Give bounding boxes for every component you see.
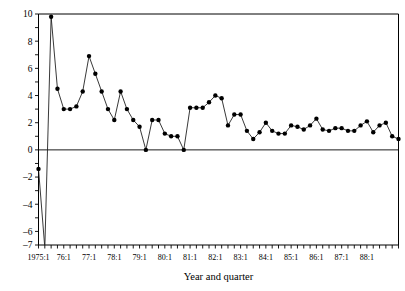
data-point-marker bbox=[358, 123, 362, 127]
data-point-marker bbox=[112, 118, 116, 122]
data-point-marker bbox=[251, 137, 255, 141]
x-axis-tick-label: 1975:1 bbox=[27, 253, 49, 262]
x-axis-tick-label: 80:1 bbox=[158, 253, 172, 262]
x-axis-tick-label: 76:1 bbox=[57, 253, 71, 262]
data-point-marker bbox=[156, 118, 160, 122]
y-axis-tick-label: 6 bbox=[28, 64, 33, 74]
x-axis-tick-label: 83:1 bbox=[233, 253, 247, 262]
y-axis-tick-label: 8 bbox=[28, 37, 33, 47]
data-point-marker bbox=[321, 127, 325, 131]
data-point-marker bbox=[352, 129, 356, 133]
data-point-marker bbox=[396, 137, 400, 141]
data-point-marker bbox=[131, 118, 135, 122]
data-point-marker bbox=[36, 167, 40, 171]
y-axis-tick-label: 0 bbox=[28, 145, 33, 155]
data-point-marker bbox=[87, 54, 91, 58]
data-point-marker bbox=[302, 127, 306, 131]
x-axis-tick-label: 84:1 bbox=[259, 253, 273, 262]
data-point-marker bbox=[62, 107, 66, 111]
data-point-marker bbox=[93, 72, 97, 76]
data-point-marker bbox=[390, 134, 394, 138]
data-point-marker bbox=[346, 129, 350, 133]
data-point-marker bbox=[365, 119, 369, 123]
data-point-marker bbox=[339, 126, 343, 130]
data-point-marker bbox=[144, 148, 148, 152]
y-axis-tick-label: 4 bbox=[28, 91, 33, 101]
x-axis-tick-label: 81:1 bbox=[183, 253, 197, 262]
data-point-marker bbox=[238, 112, 242, 116]
data-point-marker bbox=[219, 96, 223, 100]
x-axis-tick-label: 77:1 bbox=[82, 253, 96, 262]
data-point-marker bbox=[232, 112, 236, 116]
data-point-marker bbox=[257, 130, 261, 134]
data-point-marker bbox=[377, 123, 381, 127]
data-point-marker bbox=[207, 100, 211, 104]
data-point-marker bbox=[308, 123, 312, 127]
chart-container: –7–6–4–202468101975:176:177:178:179:180:… bbox=[0, 0, 405, 291]
data-point-marker bbox=[125, 107, 129, 111]
data-point-marker bbox=[295, 125, 299, 129]
y-axis-tick-label: –6 bbox=[22, 227, 33, 237]
data-point-marker bbox=[150, 118, 154, 122]
data-point-marker bbox=[314, 116, 318, 120]
x-axis-tick-label: 86:1 bbox=[309, 253, 323, 262]
data-point-marker bbox=[163, 131, 167, 135]
data-point-marker bbox=[226, 123, 230, 127]
y-axis-tick-label: –7 bbox=[22, 240, 33, 250]
data-point-marker bbox=[55, 87, 59, 91]
data-point-marker bbox=[201, 106, 205, 110]
data-point-marker bbox=[283, 131, 287, 135]
x-axis-tick-label: 79:1 bbox=[132, 253, 146, 262]
x-axis-tick-label: 85:1 bbox=[284, 253, 298, 262]
data-point-marker bbox=[182, 148, 186, 152]
time-series-chart: –7–6–4–202468101975:176:177:178:179:180:… bbox=[0, 0, 405, 291]
y-axis-tick-label: –4 bbox=[22, 200, 33, 210]
y-axis-tick-label: –2 bbox=[22, 172, 33, 182]
data-point-marker bbox=[106, 107, 110, 111]
data-point-marker bbox=[276, 131, 280, 135]
data-point-marker bbox=[327, 129, 331, 133]
data-point-marker bbox=[169, 134, 173, 138]
x-axis-title: Year and quarter bbox=[184, 271, 254, 282]
data-point-marker bbox=[188, 106, 192, 110]
data-point-marker bbox=[118, 89, 122, 93]
data-point-marker bbox=[99, 89, 103, 93]
data-point-marker bbox=[333, 126, 337, 130]
data-point-marker bbox=[74, 104, 78, 108]
data-point-marker bbox=[194, 106, 198, 110]
data-series-line bbox=[39, 17, 399, 248]
data-point-marker bbox=[81, 89, 85, 93]
y-axis-tick-label: 2 bbox=[28, 118, 33, 128]
data-point-marker bbox=[384, 121, 388, 125]
x-axis-tick-label: 87:1 bbox=[335, 253, 349, 262]
x-axis-tick-label: 82:1 bbox=[208, 253, 222, 262]
data-point-marker bbox=[289, 123, 293, 127]
x-axis-tick-label: 88:1 bbox=[360, 253, 374, 262]
data-point-marker bbox=[264, 121, 268, 125]
y-axis-tick-label: 10 bbox=[23, 9, 33, 19]
data-point-marker bbox=[68, 107, 72, 111]
x-axis-tick-label: 78:1 bbox=[107, 253, 121, 262]
data-point-marker bbox=[49, 15, 53, 19]
data-point-marker bbox=[270, 129, 274, 133]
data-point-marker bbox=[245, 129, 249, 133]
data-point-marker bbox=[213, 93, 217, 97]
data-point-marker bbox=[137, 125, 141, 129]
data-point-marker bbox=[371, 130, 375, 134]
data-point-marker bbox=[175, 134, 179, 138]
